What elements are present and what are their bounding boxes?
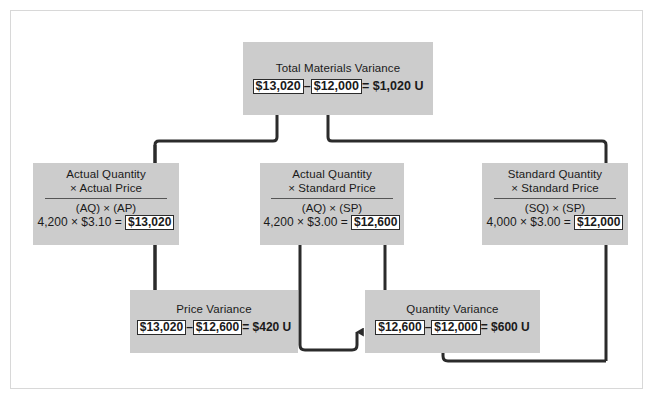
aqap-title-line1: Actual Quantity	[66, 168, 145, 180]
total-operator: –	[304, 79, 311, 93]
aqap-calculation: 4,200 × $3.10 = $13,020	[33, 215, 179, 230]
aqap-title: Actual Quantity × Actual Price	[33, 163, 179, 195]
price-variance-right-value: $12,600	[193, 320, 242, 335]
price-variance-result: = $420 U	[242, 320, 291, 334]
sqsp-formula: (SQ) × (SP)	[482, 201, 628, 215]
aqap-calc-value: $13,020	[125, 215, 174, 230]
quantity-variance-title: Quantity Variance	[365, 290, 540, 317]
quantity-variance-calculation: $12,600–$12,000= $600 U	[365, 320, 540, 335]
quantity-variance-box: Quantity Variance $12,600–$12,000= $600 …	[365, 290, 540, 353]
sqsp-calc-prefix: 4,000 × $3.00 =	[487, 215, 571, 229]
price-variance-operator: –	[186, 320, 193, 334]
aqsp-title-line1: Actual Quantity	[292, 168, 371, 180]
total-left-value: $13,020	[253, 79, 304, 94]
quantity-variance-operator: –	[425, 320, 432, 334]
diagram-canvas: Total Materials Variance $13,020–$12,000…	[0, 0, 655, 401]
actual-quantity-actual-price-box: Actual Quantity × Actual Price (AQ) × (A…	[33, 163, 179, 245]
aqsp-calc-value: $12,600	[351, 215, 400, 230]
sqsp-title-line2: × Standard Price	[482, 182, 628, 196]
aqsp-calculation: 4,200 × $3.00 = $12,600	[260, 215, 404, 230]
aqsp-formula: (AQ) × (SP)	[260, 201, 404, 215]
aqsp-title: Actual Quantity × Standard Price	[260, 163, 404, 195]
aqap-divider	[45, 198, 167, 199]
price-variance-box: Price Variance $13,020–$12,600= $420 U	[130, 290, 298, 353]
sqsp-divider	[494, 198, 616, 199]
price-variance-calculation: $13,020–$12,600= $420 U	[130, 320, 298, 335]
total-materials-variance-title: Total Materials Variance	[243, 42, 433, 76]
aqsp-title-line2: × Standard Price	[260, 182, 404, 196]
total-result: = $1,020 U	[362, 79, 424, 93]
sqsp-calc-value: $12,000	[574, 215, 623, 230]
sqsp-title-line1: Standard Quantity	[508, 168, 602, 180]
total-materials-variance-box: Total Materials Variance $13,020–$12,000…	[243, 42, 433, 115]
aqap-formula: (AQ) × (AP)	[33, 201, 179, 215]
standard-quantity-standard-price-box: Standard Quantity × Standard Price (SQ) …	[482, 163, 628, 245]
connector-aqsp-to-price-variance	[300, 228, 357, 350]
price-variance-left-value: $13,020	[137, 320, 186, 335]
quantity-variance-right-value: $12,000	[431, 320, 480, 335]
aqsp-calc-prefix: 4,200 × $3.00 =	[264, 215, 348, 229]
aqsp-divider	[271, 198, 393, 199]
quantity-variance-result: = $600 U	[481, 320, 530, 334]
price-variance-title: Price Variance	[130, 290, 298, 317]
quantity-variance-left-value: $12,600	[375, 320, 424, 335]
aqap-calc-prefix: 4,200 × $3.10 =	[38, 215, 122, 229]
total-materials-variance-calculation: $13,020–$12,000= $1,020 U	[243, 79, 433, 94]
actual-quantity-standard-price-box: Actual Quantity × Standard Price (AQ) × …	[260, 163, 404, 245]
sqsp-title: Standard Quantity × Standard Price	[482, 163, 628, 195]
total-right-value: $12,000	[311, 79, 362, 94]
sqsp-calculation: 4,000 × $3.00 = $12,000	[482, 215, 628, 230]
aqap-title-line2: × Actual Price	[33, 182, 179, 196]
